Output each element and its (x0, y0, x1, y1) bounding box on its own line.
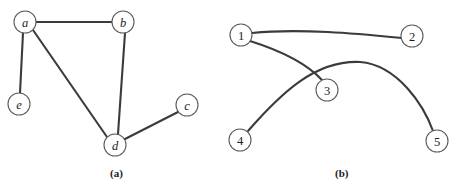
node-4-label: 4 (237, 134, 244, 148)
node-2[interactable]: 2 (401, 25, 423, 47)
node-a-label: a (22, 16, 28, 30)
panel-a-caption: (a) (110, 167, 123, 179)
node-b[interactable]: b (112, 11, 134, 33)
node-5[interactable]: 5 (426, 130, 448, 152)
panel-a-nodes: a b c d e (8, 11, 198, 156)
graph-figure: a b c d e (0, 0, 459, 186)
node-5-label: 5 (434, 135, 440, 149)
node-1-label: 1 (238, 29, 244, 43)
node-4[interactable]: 4 (229, 129, 251, 151)
node-1[interactable]: 1 (230, 24, 252, 46)
edge-b-d (118, 33, 125, 134)
node-3[interactable]: 3 (316, 79, 338, 101)
node-e-label: e (16, 98, 22, 112)
panel-b-edges (248, 31, 433, 131)
edge-c-d (125, 112, 178, 139)
edge-a-d (33, 30, 107, 137)
node-b-label: b (120, 16, 126, 30)
node-c-label: c (184, 99, 190, 113)
edge-1-2 (252, 31, 401, 38)
panel-b-caption: (b) (335, 167, 348, 179)
panel-a-edges (20, 22, 178, 139)
node-3-label: 3 (324, 84, 330, 98)
node-2-label: 2 (409, 30, 415, 44)
node-e[interactable]: e (8, 93, 30, 115)
graph-canvas: a b c d e (0, 0, 459, 186)
edge-4-5 (248, 62, 433, 131)
node-d[interactable]: d (104, 134, 126, 156)
node-c[interactable]: c (176, 94, 198, 116)
node-d-label: d (112, 139, 119, 153)
panel-b-nodes: 1 2 3 4 5 (229, 24, 448, 152)
edge-a-e (20, 33, 23, 93)
node-a[interactable]: a (14, 11, 36, 33)
